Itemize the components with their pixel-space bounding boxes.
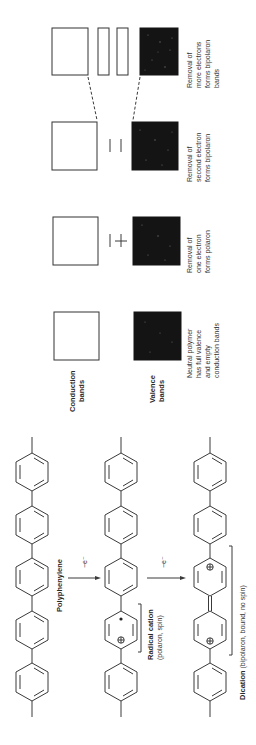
caption-bipolaron-bands-line2: more electrons	[195, 41, 202, 88]
dication-chain: Dication (bipolaron, bound, no spin)	[194, 437, 247, 717]
caption-bipolaron-line2: second electron	[195, 132, 202, 182]
radical-cation-label: Radical cation	[146, 609, 155, 660]
conduction-label-2: bands	[77, 380, 86, 402]
caption-polaron-line2: one electron	[195, 234, 202, 273]
valence-band-box	[133, 217, 180, 265]
conduction-band-box	[52, 28, 88, 75]
caption-neutral-line1: Neutral polymer	[186, 328, 194, 378]
polaron-bracket	[138, 604, 141, 652]
valence-label: Valence	[148, 375, 157, 403]
polymer-band-diagram: Conduction bands Valence bands Removal o…	[0, 0, 256, 745]
bipolaron-band-lower	[117, 28, 128, 75]
bipolaron-band-upper	[98, 28, 109, 75]
caption-bipolaron-bands-line4: bands	[213, 68, 220, 88]
caption-bipolaron-bands-line1: Removal of	[186, 53, 193, 88]
valence-label-2: bands	[157, 380, 166, 402]
plus-circle-icon	[207, 638, 213, 644]
arrow-oxidation-1: −e⁻	[68, 556, 101, 580]
stage-bipolaron-bands	[52, 28, 178, 75]
caption-neutral-line4: conduction bands	[213, 323, 220, 378]
caption-bipolaron-line1: Removal of	[186, 147, 193, 182]
stage-polaron	[53, 217, 180, 265]
valence-band-box	[132, 122, 178, 170]
caption-neutral-line2: has full valence	[195, 330, 202, 378]
caption-bipolaron-line3: forms bipolaron	[204, 134, 212, 182]
dashed-connector-valence	[133, 77, 140, 120]
polyphenylene-label: Polyphenylene	[55, 559, 64, 612]
bipolaron-bracket	[229, 546, 232, 655]
minus-electron-label: −e⁻	[160, 556, 167, 568]
caption-polaron-line1: Removal of	[186, 238, 193, 273]
caption-neutral-line3: and empty	[204, 345, 212, 378]
minus-electron-label: −e⁻	[81, 556, 88, 568]
arrow-oxidation-2: −e⁻	[147, 556, 186, 580]
polyphenylene-chain: Polyphenylene	[16, 437, 64, 717]
radical-dot-icon	[119, 617, 122, 620]
dication-label-bold: Dication	[238, 670, 247, 700]
conduction-band-box	[52, 122, 97, 170]
plus-circle-icon	[207, 564, 213, 570]
valence-band-box	[140, 28, 178, 75]
caption-bipolaron-bands-line3: forms bipolaron	[204, 40, 212, 88]
dication-label: Dication (bipolaron, bound, no spin)	[238, 585, 247, 700]
polaron-spin-label: (polaron, spin)	[156, 615, 164, 660]
dashed-connector-conduction	[88, 77, 97, 120]
band-diagram: Conduction bands Valence bands Removal o…	[52, 28, 220, 412]
conduction-band-box	[54, 312, 99, 360]
dication-label-sub: (bipolaron, bound, no spin)	[239, 585, 247, 670]
caption-polaron-line3: forms polaron	[204, 230, 212, 273]
radical-cation-chain: Radical cation (polaron, spin)	[105, 437, 164, 717]
conduction-band-box	[53, 217, 98, 265]
conduction-label: Conduction	[68, 370, 77, 412]
stage-bipolaron	[52, 122, 178, 170]
stage-neutral	[54, 312, 181, 360]
valence-band-box	[134, 312, 181, 360]
plus-circle-icon	[118, 637, 124, 643]
